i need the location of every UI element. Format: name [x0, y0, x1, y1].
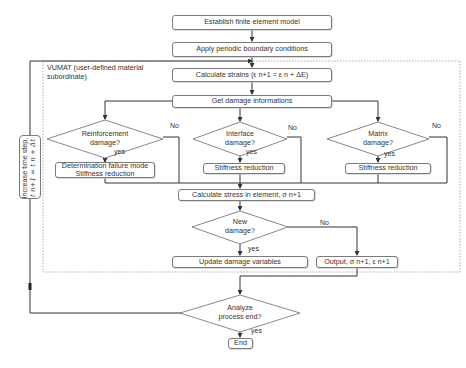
reinforcement-no-label: No: [170, 122, 179, 130]
reinforcement-line2: damage?: [90, 139, 120, 148]
stiffness-reduction-text: Stiffness reduction: [76, 170, 135, 178]
analyze-yes-label: yes: [251, 327, 262, 335]
new-damage-yes-label: yes: [248, 245, 259, 253]
matrix-no-label: No: [432, 122, 441, 130]
time-step-line1: Increase time step,: [20, 136, 29, 200]
interface-no-label: No: [288, 124, 297, 132]
analyze-label: Analyze process end?: [205, 302, 275, 324]
interface-line2: damage?: [225, 139, 255, 148]
vumat-region-label: VUMAT (user-defined material subordinate…: [47, 64, 167, 81]
output-box: Output, σ n+1, ε n+1: [316, 256, 398, 268]
apply-boundary-box: Apply periodic boundary conditions: [172, 42, 332, 57]
new-damage-label: New damage?: [210, 216, 270, 238]
calculate-stress-box: Calculate stress in element, σ n+1: [178, 189, 315, 201]
calculate-strains-box: Calculate strains (ε n+1 = ε n + ΔE): [172, 68, 332, 82]
new-damage-line2: damage?: [225, 227, 255, 236]
establish-model-box: Establish finite element model: [172, 15, 332, 30]
analyze-line2: process end?: [218, 313, 261, 322]
matrix-line2: damage?: [363, 139, 393, 148]
interface-yes-label: yes: [246, 148, 257, 156]
interface-stiffness-box: Stiffness reduction: [203, 163, 285, 174]
get-damage-box: Get damage informations: [172, 95, 332, 108]
update-damage-box: Update damage variables: [172, 256, 308, 268]
reinforcement-yes-label: yes: [114, 148, 125, 156]
reinforcement-decision-label: Reinforcement damage?: [67, 128, 143, 150]
flowchart: VUMAT (user-defined material subordinate…: [0, 0, 466, 368]
matrix-decision-label: Matrix damage?: [346, 128, 410, 150]
interface-decision-label: Interface damage?: [208, 128, 272, 150]
matrix-stiffness-box: Stiffness reduction: [345, 163, 431, 174]
matrix-yes-label: yes: [384, 150, 395, 158]
reinforcement-action-box: Determination failure mode Stiffness red…: [55, 162, 155, 178]
time-step-label: Increase time step, t n+1 = t n + Δt: [20, 136, 40, 200]
time-step-line2: t n+1 = t n + Δt: [29, 136, 38, 200]
new-damage-no-label: No: [320, 219, 329, 227]
loop-marker: [29, 283, 32, 290]
end-box: End: [228, 338, 253, 349]
